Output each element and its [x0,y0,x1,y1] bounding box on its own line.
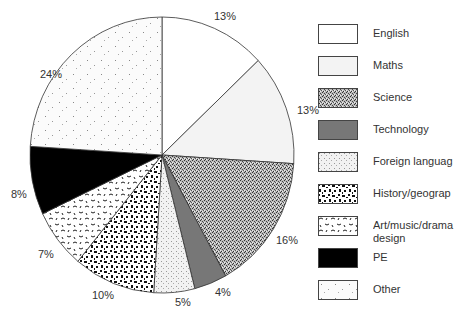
slice-percent-label: 4% [215,286,231,298]
legend-label: Technology [373,120,458,136]
legend-swatch [318,24,358,44]
legend-item: Other [318,280,458,300]
legend-item: Technology [318,120,458,140]
legend-swatch [318,184,358,204]
legend-item: History/geograp [318,184,458,204]
slice-percent-label: 24% [40,68,62,80]
legend-item: Science [318,88,458,108]
legend-swatch [318,88,358,108]
legend-label: Science [373,88,458,104]
legend-swatch [318,56,358,76]
legend-swatch [318,120,358,140]
legend-item: PE [318,248,458,268]
legend-label: English [373,24,458,40]
legend-label: PE [373,248,458,264]
legend-swatch [318,152,358,172]
slice-percent-label: 13% [214,10,236,22]
slice-percent-label: 7% [38,248,54,260]
legend-label: Foreign languag [373,152,458,168]
legend-label: Art/music/dramadesign [373,216,458,245]
slice-percent-label: 5% [175,296,191,308]
slice-percent-label: 8% [11,188,27,200]
legend-item: Maths [318,56,458,76]
legend-swatch [318,280,358,300]
legend-item: Foreign languag [318,152,458,172]
slice-percent-label: 13% [297,104,319,116]
legend-item: English [318,24,458,44]
legend-swatch [318,248,358,268]
legend-label: Other [373,280,458,296]
slice-percent-label: 10% [92,289,114,301]
legend-swatch [318,216,358,236]
legend-label: Maths [373,56,458,72]
legend-item: Art/music/dramadesign [318,216,458,245]
slice-percent-label: 16% [276,234,298,246]
pie-slice-other [30,17,162,155]
legend-label: History/geograp [373,184,458,200]
